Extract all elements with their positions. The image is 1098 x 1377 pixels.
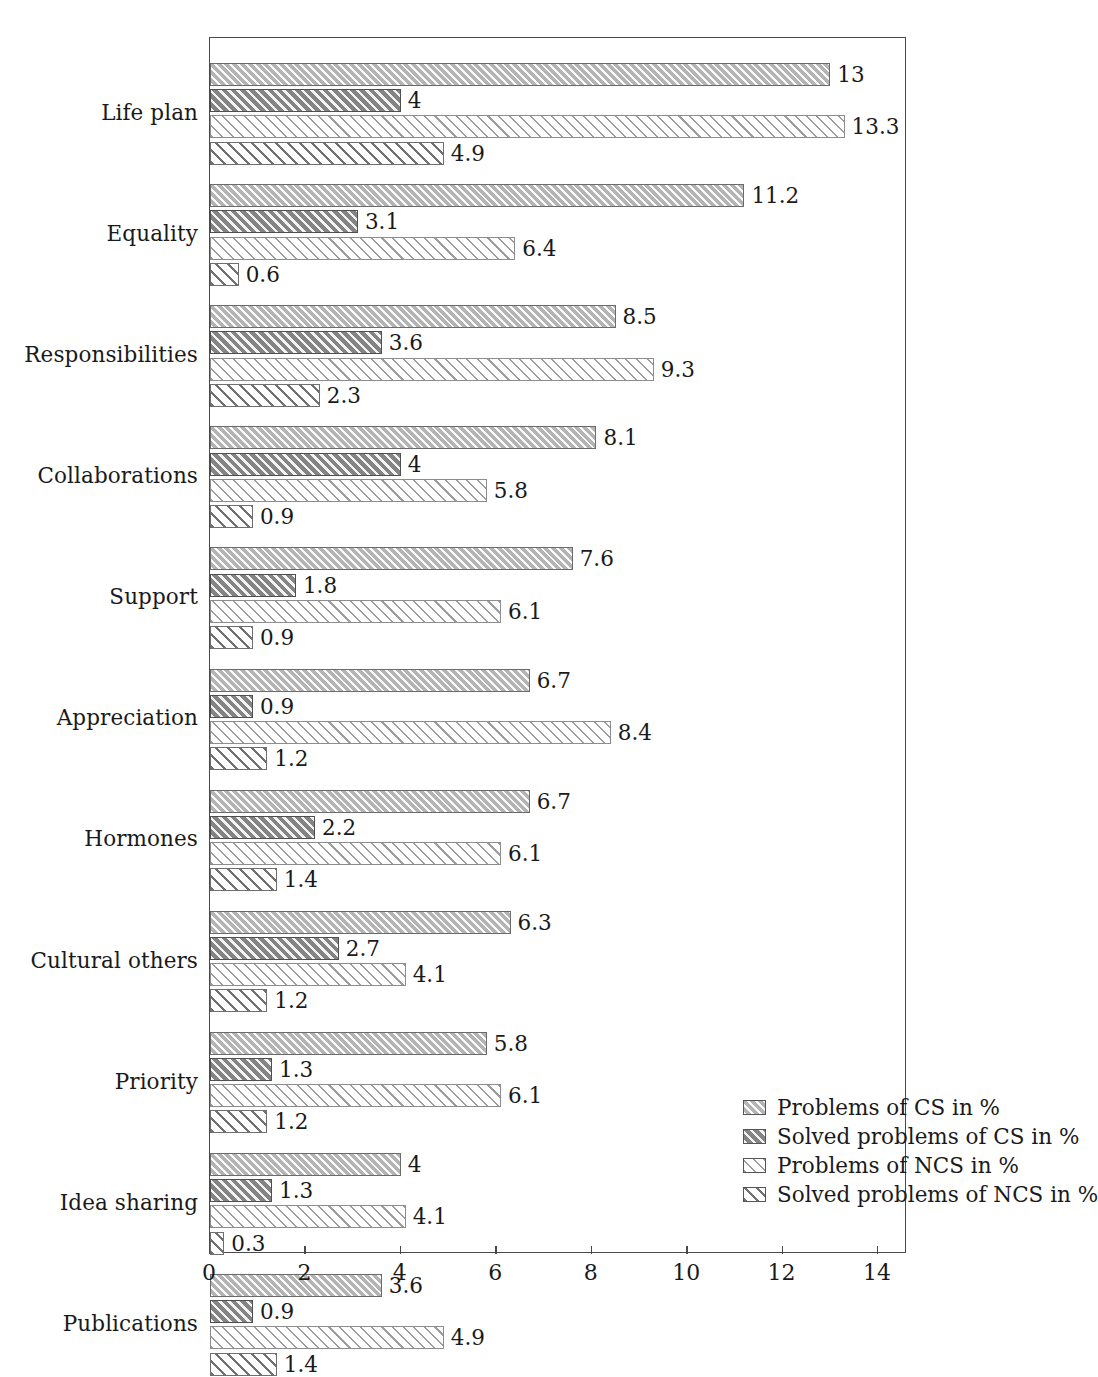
y-axis-label-cultural-others: Cultural others [2, 950, 198, 972]
bar [210, 63, 830, 86]
bar [210, 989, 267, 1012]
y-axis-label-priority: Priority [2, 1071, 198, 1093]
x-axis-tick-label: 8 [561, 1262, 621, 1284]
bar [210, 305, 616, 328]
bar-value-label: 4 [401, 1153, 422, 1176]
bar [210, 1032, 487, 1055]
bar [210, 1153, 401, 1176]
legend-label: Problems of NCS in % [777, 1155, 1019, 1177]
x-axis-tick-label: 4 [370, 1262, 430, 1284]
bar-value-label: 2.7 [339, 937, 380, 960]
bar [210, 479, 487, 502]
bar [210, 184, 744, 207]
bar [210, 263, 239, 286]
bar-value-label: 6.1 [501, 600, 542, 623]
bar-value-label: 5.8 [487, 1032, 528, 1055]
x-axis-tick [304, 1246, 305, 1254]
bar-value-label: 1.8 [296, 574, 337, 597]
bar-value-label: 2.3 [320, 384, 361, 407]
bar [210, 115, 845, 138]
bar-value-label: 0.9 [253, 695, 294, 718]
bar-value-label: 0.9 [253, 1300, 294, 1323]
bar-value-label: 4.9 [444, 1326, 485, 1349]
bar-value-label: 5.8 [487, 479, 528, 502]
bar-value-label: 11.2 [744, 184, 799, 207]
bar-value-label: 7.6 [573, 547, 614, 570]
legend-swatch-icon [743, 1158, 766, 1173]
bar [210, 963, 406, 986]
y-axis-label-publications: Publications [2, 1313, 198, 1335]
bar-value-label: 4.9 [444, 142, 485, 165]
y-axis-label-idea-sharing: Idea sharing [2, 1192, 198, 1214]
legend-label: Problems of CS in % [777, 1097, 1000, 1119]
bar [210, 600, 501, 623]
legend-swatch-icon [743, 1129, 766, 1144]
bar-value-label: 4 [401, 453, 422, 476]
bar [210, 842, 501, 865]
bar-value-label: 4 [401, 89, 422, 112]
y-axis-label-appreciation: Appreciation [2, 707, 198, 729]
bar-value-label: 1.3 [272, 1179, 313, 1202]
bar-value-label: 1.2 [267, 1110, 308, 1133]
bar [210, 695, 253, 718]
bar [210, 1084, 501, 1107]
x-axis-tick-label: 12 [752, 1262, 812, 1284]
bar [210, 505, 253, 528]
legend-swatch-icon [743, 1187, 766, 1202]
bar [210, 1326, 444, 1349]
legend-item: Solved problems of NCS in % [743, 1180, 1093, 1209]
bar-value-label: 1.4 [277, 868, 318, 891]
bar [210, 1300, 253, 1323]
legend-item: Problems of NCS in % [743, 1151, 1093, 1180]
x-axis-tick [686, 1246, 687, 1254]
legend-label: Solved problems of CS in % [777, 1126, 1079, 1148]
y-axis-category-labels: Life planEqualityResponsibilitiesCollabo… [0, 0, 198, 1330]
bar [210, 937, 339, 960]
bar-value-label: 9.3 [654, 358, 695, 381]
x-axis-tick [877, 1246, 878, 1254]
bar-value-label: 1.3 [272, 1058, 313, 1081]
y-axis-label-equality: Equality [2, 223, 198, 245]
bar [210, 547, 573, 570]
bar-value-label: 6.1 [501, 1084, 542, 1107]
y-axis-label-hormones: Hormones [2, 828, 198, 850]
bar [210, 453, 401, 476]
bar [210, 626, 253, 649]
y-axis-label-life-plan: Life plan [2, 102, 198, 124]
bar [210, 1232, 224, 1255]
bar [210, 1179, 272, 1202]
bar [210, 384, 320, 407]
bar-value-label: 4.1 [406, 963, 447, 986]
x-axis-tick [400, 1246, 401, 1254]
bar-value-label: 2.2 [315, 816, 356, 839]
bar [210, 237, 515, 260]
bar-value-label: 1.2 [267, 747, 308, 770]
bar-value-label: 8.1 [596, 426, 637, 449]
bar [210, 747, 267, 770]
bar [210, 358, 654, 381]
chart-legend: Problems of CS in %Solved problems of CS… [743, 1093, 1093, 1209]
y-axis-label-support: Support [2, 586, 198, 608]
x-axis-tick-label: 6 [465, 1262, 525, 1284]
x-axis-tick-label: 2 [274, 1262, 334, 1284]
bar [210, 1058, 272, 1081]
bar [210, 721, 611, 744]
bar-value-label: 13 [830, 63, 864, 86]
bar-value-label: 0.9 [253, 505, 294, 528]
bar-value-label: 3.6 [382, 331, 423, 354]
bar-value-label: 0.3 [224, 1232, 265, 1255]
bar [210, 669, 530, 692]
x-axis-tick [495, 1246, 496, 1254]
bar [210, 331, 382, 354]
bar-value-label: 6.7 [530, 669, 571, 692]
bar-value-label: 6.3 [511, 911, 552, 934]
bar-value-label: 0.9 [253, 626, 294, 649]
bar-value-label: 1.2 [267, 989, 308, 1012]
legend-item: Problems of CS in % [743, 1093, 1093, 1122]
x-axis-tick [209, 1246, 210, 1254]
bar [210, 1110, 267, 1133]
bar [210, 790, 530, 813]
x-axis-tick-label: 14 [847, 1262, 907, 1284]
y-axis-label-responsibilities: Responsibilities [2, 344, 198, 366]
